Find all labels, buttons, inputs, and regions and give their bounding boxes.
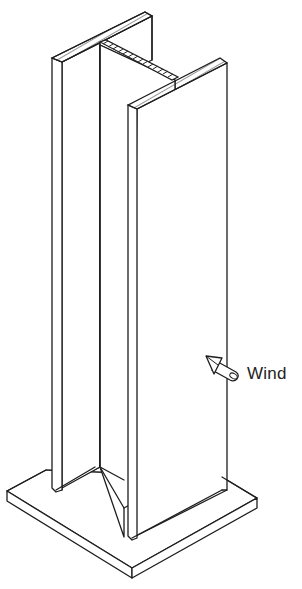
front-flange (128, 58, 227, 540)
i-beam-column-diagram (0, 0, 302, 589)
wind-label: Wind (247, 364, 287, 384)
